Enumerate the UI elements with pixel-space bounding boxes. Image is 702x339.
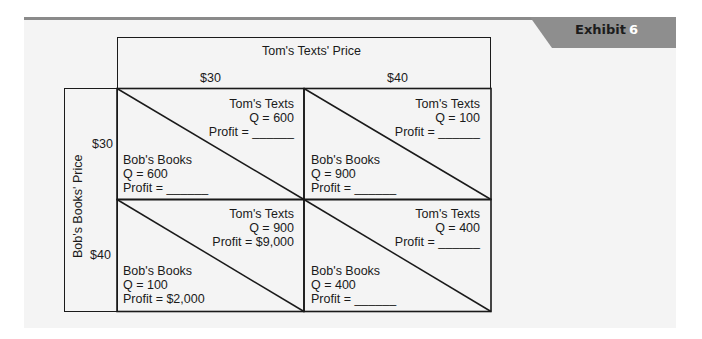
tom-quantity: Q = 900 [212,221,294,235]
bob-quantity: Q = 400 [311,278,396,292]
cell-30-40-tom: Tom's Texts Q = 100 Profit = ______ [395,97,480,139]
tom-quantity: Q = 600 [209,111,294,125]
bob-profit: Profit = $2,000 [123,292,205,306]
tom-profit: Profit = ______ [209,125,294,139]
cell-40-30-tom: Tom's Texts Q = 900 Profit = $9,000 [212,207,294,249]
tom-profit: Profit = $9,000 [212,235,294,249]
tom-name: Tom's Texts [209,97,294,111]
bob-profit: Profit = ______ [311,181,396,195]
bob-name: Bob's Books [123,153,208,167]
cell-40-40-tom: Tom's Texts Q = 400 Profit = ______ [395,207,480,249]
bob-profit: Profit = ______ [123,181,208,195]
bob-quantity: Q = 600 [123,167,208,181]
tom-quantity: Q = 100 [395,111,480,125]
cell-30-30-tom: Tom's Texts Q = 600 Profit = ______ [209,97,294,139]
tom-name: Tom's Texts [212,207,294,221]
cell-40-40-bob: Bob's Books Q = 400 Profit = ______ [311,264,396,306]
cell-30-40-bob: Bob's Books Q = 900 Profit = ______ [311,153,396,195]
tom-profit: Profit = ______ [395,235,480,249]
tom-name: Tom's Texts [395,207,480,221]
tom-profit: Profit = ______ [395,125,480,139]
cell-30-30-bob: Bob's Books Q = 600 Profit = ______ [123,153,208,195]
bob-name: Bob's Books [123,264,205,278]
bob-name: Bob's Books [311,264,396,278]
bob-quantity: Q = 100 [123,278,205,292]
bob-name: Bob's Books [311,153,396,167]
bob-quantity: Q = 900 [311,167,396,181]
tom-name: Tom's Texts [395,97,480,111]
cell-40-30-bob: Bob's Books Q = 100 Profit = $2,000 [123,264,205,306]
bob-profit: Profit = ______ [311,292,396,306]
tom-quantity: Q = 400 [395,221,480,235]
